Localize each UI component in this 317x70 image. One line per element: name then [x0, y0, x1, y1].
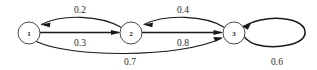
state-transition-diagram: 1 2 3 0.2 0.3 0.4 0.8 0.7 0.6	[0, 0, 317, 70]
node-1-label: 1	[27, 30, 31, 38]
edge-1-to-2	[40, 30, 121, 35]
graph-canvas: 1 2 3 0.2 0.3 0.4 0.8 0.7 0.6	[0, 0, 317, 70]
node-2[interactable]: 2	[120, 22, 142, 44]
edge-2-to-3-arrowhead	[214, 30, 224, 35]
edge-2-to-1	[41, 17, 122, 27]
edge-3-to-3-path	[243, 18, 305, 46]
node-1[interactable]: 1	[18, 22, 40, 44]
edge-label-2-to-3: 0.8	[177, 38, 189, 48]
edge-2-to-3	[143, 30, 224, 35]
edge-2-to-1-path	[42, 17, 122, 27]
node-2-label: 2	[129, 30, 133, 38]
node-3[interactable]: 3	[223, 22, 245, 44]
edge-label-3-to-2: 0.4	[177, 5, 189, 15]
edge-label-3-to-3: 0.6	[271, 57, 283, 67]
edge-3-to-2-path	[144, 17, 225, 27]
node-3-label: 3	[232, 30, 236, 38]
edge-3-to-3-self-loop	[242, 18, 306, 46]
edge-label-2-to-1: 0.2	[74, 5, 86, 15]
edge-label-1-to-3: 0.7	[124, 57, 136, 67]
edge-label-1-to-2: 0.3	[74, 38, 86, 48]
edge-1-to-2-arrowhead	[111, 30, 121, 35]
edge-3-to-2	[144, 17, 225, 27]
